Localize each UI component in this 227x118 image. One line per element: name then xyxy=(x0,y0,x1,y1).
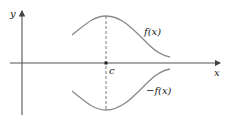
diagram: y x c f(x) −f(x) xyxy=(0,0,227,118)
point-c xyxy=(105,62,108,65)
point-c-label: c xyxy=(109,65,115,76)
curve-f-label: f(x) xyxy=(143,26,161,37)
x-axis-label: x xyxy=(214,67,220,78)
curve-neg-f-label: −f(x) xyxy=(146,85,172,96)
y-axis-label: y xyxy=(9,8,16,19)
